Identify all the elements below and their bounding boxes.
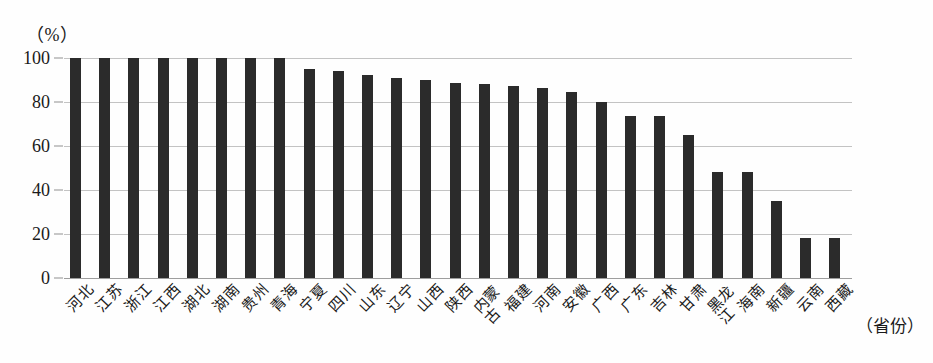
y-axis-tick-label: 40 xyxy=(4,181,50,199)
bar xyxy=(333,71,344,278)
bar-chart-figure: （%） 020406080100 河北江苏浙江江西湖北湖南贵州青海宁夏四川山东辽… xyxy=(0,0,933,363)
bar xyxy=(70,58,81,278)
x-axis-category-label: 云南 xyxy=(794,282,827,315)
bar xyxy=(625,116,636,278)
x-axis-category-label: 广西 xyxy=(590,282,623,315)
bar xyxy=(450,83,461,278)
bar xyxy=(391,78,402,278)
bar xyxy=(362,75,373,279)
bar xyxy=(742,172,753,278)
y-axis-tick-label: 20 xyxy=(4,225,50,243)
x-axis-category-label: 贵州 xyxy=(239,282,272,315)
x-axis-category-label: 江西 xyxy=(152,282,185,315)
y-axis-tick-label: 80 xyxy=(4,93,50,111)
plot-area xyxy=(64,58,852,278)
bar-series xyxy=(64,58,852,278)
bar xyxy=(128,58,139,278)
bar xyxy=(420,80,431,278)
x-axis-title: （省份） xyxy=(856,312,924,337)
bar xyxy=(566,92,577,278)
y-axis-tick-mark xyxy=(54,146,63,147)
bar xyxy=(683,135,694,278)
y-axis-tick-mark xyxy=(54,58,63,59)
y-axis-tick-mark xyxy=(54,278,63,279)
y-axis-tick-label: 100 xyxy=(4,49,50,67)
x-axis-category-label: 江苏 xyxy=(93,282,126,315)
bar xyxy=(304,69,315,278)
x-axis-category-label: 安徽 xyxy=(560,282,593,315)
bar xyxy=(508,86,519,279)
x-axis-category-label: 宁夏 xyxy=(298,282,331,315)
x-axis-category-label: 河南 xyxy=(531,282,564,315)
y-axis-tick-label: 0 xyxy=(4,269,50,287)
x-axis-category-label: 吉林 xyxy=(648,282,681,315)
x-axis-category-label: 新疆 xyxy=(765,282,798,315)
x-axis-category-label: 湖北 xyxy=(181,282,214,315)
x-axis-category-label: 山东 xyxy=(356,282,389,315)
y-axis-tick-label: 60 xyxy=(4,137,50,155)
x-axis-category-label: 陕西 xyxy=(444,282,477,315)
bar xyxy=(800,238,811,278)
x-axis-category-label: 河北 xyxy=(64,282,97,315)
x-axis-category-label: 辽宁 xyxy=(385,282,418,315)
bar xyxy=(537,88,548,278)
bar xyxy=(245,58,256,278)
bar xyxy=(216,58,227,278)
bar xyxy=(479,84,490,278)
x-axis-category-label: 四川 xyxy=(327,282,360,315)
x-axis-category-label: 浙江 xyxy=(122,282,155,315)
bar xyxy=(158,58,169,278)
x-axis-category-label: 湖南 xyxy=(210,282,243,315)
y-axis-tick-mark xyxy=(54,234,63,235)
x-axis-category-labels: 河北江苏浙江江西湖北湖南贵州青海宁夏四川山东辽宁山西陕西内蒙古福建河南安徽广西广… xyxy=(64,282,852,360)
bar xyxy=(274,58,285,278)
bar xyxy=(712,172,723,278)
y-axis-unit-label: （%） xyxy=(26,20,79,46)
y-axis-tick-mark xyxy=(54,102,63,103)
x-axis-category-label: 甘肃 xyxy=(677,282,710,315)
x-axis-baseline xyxy=(64,278,852,279)
x-axis-category-label: 西藏 xyxy=(823,282,856,315)
bar xyxy=(829,238,840,278)
x-axis-category-label: 青海 xyxy=(268,282,301,315)
bar xyxy=(654,116,665,278)
bar xyxy=(771,201,782,278)
bar xyxy=(187,58,198,278)
bar xyxy=(99,58,110,278)
bar xyxy=(596,102,607,278)
x-axis-category-label: 广东 xyxy=(619,282,652,315)
y-axis-tick-mark xyxy=(54,190,63,191)
x-axis-category-label: 山西 xyxy=(414,282,447,315)
